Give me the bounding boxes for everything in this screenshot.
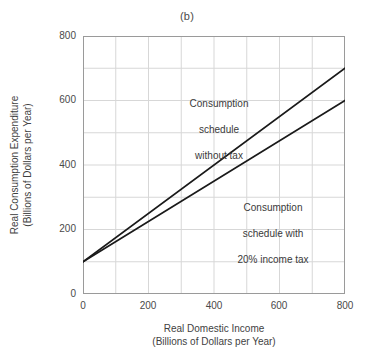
annotation-with-tax-line2: schedule with	[210, 227, 336, 240]
y-tick-label-600: 600	[42, 94, 76, 105]
x-tick-label-800: 800	[325, 300, 365, 311]
x-tick-label-600: 600	[259, 300, 299, 311]
chart-figure: (b) Real Consumption Expenditure (Billio…	[0, 0, 374, 363]
y-tick-label-0: 0	[42, 288, 76, 299]
y-tick-label-800: 800	[42, 30, 76, 41]
annotation-without-tax-line1: Consumption	[160, 97, 278, 110]
x-axis-title-line1: Real Domestic Income	[83, 322, 345, 335]
panel-title: (b)	[0, 10, 374, 22]
y-axis-title-line2: (Billions of Dollars per Year)	[21, 96, 34, 234]
annotation-without-tax-line3: without tax	[160, 149, 278, 162]
annotation-without-tax-line2: schedule	[160, 123, 278, 136]
x-tick-label-0: 0	[63, 300, 103, 311]
x-axis-title-line2: (Billions of Dollars per Year)	[83, 335, 345, 348]
y-tick-label-400: 400	[42, 159, 76, 170]
annotation-with-tax: Consumption schedule with 20% income tax	[210, 188, 336, 279]
annotation-with-tax-line1: Consumption	[210, 201, 336, 214]
x-tick-label-400: 400	[194, 300, 234, 311]
x-axis-title: Real Domestic Income (Billions of Dollar…	[83, 322, 345, 348]
y-axis-title-line1: Real Consumption Expenditure	[8, 96, 21, 234]
annotation-without-tax: Consumption schedule without tax	[160, 84, 278, 175]
y-tick-label-200: 200	[42, 223, 76, 234]
y-axis-title: Real Consumption Expenditure (Billions o…	[0, 36, 42, 294]
annotation-with-tax-line3: 20% income tax	[210, 253, 336, 266]
x-tick-label-200: 200	[128, 300, 168, 311]
